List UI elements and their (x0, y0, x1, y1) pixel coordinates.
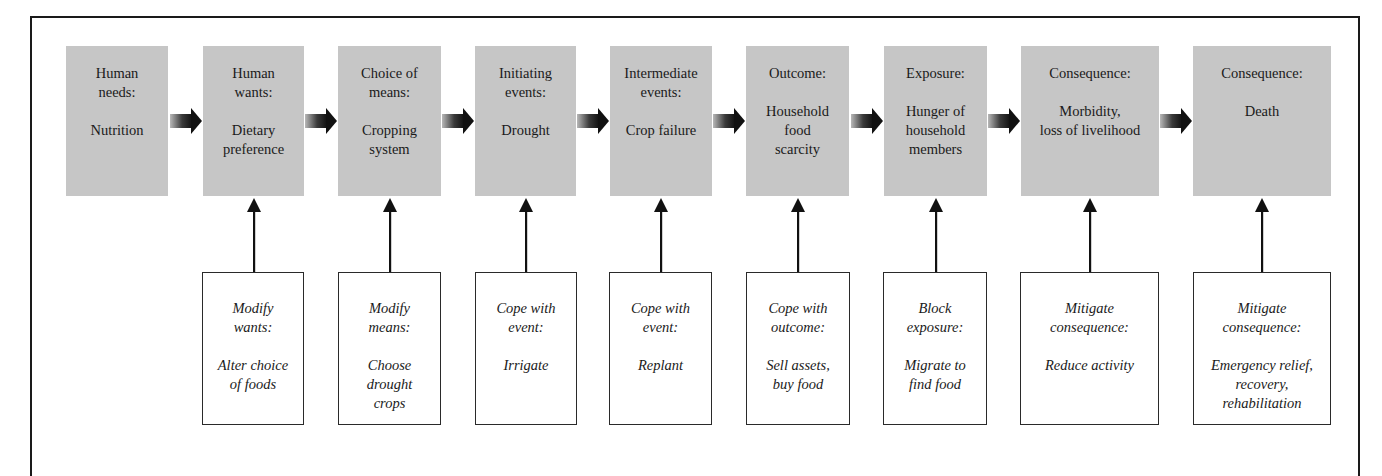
stage-value: Morbidity,loss of livelihood (1021, 102, 1159, 140)
stage-value-line: Cropping (362, 122, 417, 138)
response-heading: Mitigateconsequence: (1021, 299, 1158, 337)
stage-heading-line: Choice of (361, 65, 418, 81)
stage-heading: Humanneeds: (66, 64, 168, 102)
stage-value-line: Hunger of (906, 103, 965, 119)
response-action: Alter choiceof foods (203, 356, 303, 394)
stage-box: Exposure:Hunger ofhouseholdmembers (884, 46, 987, 196)
response-action: Sell assets,buy food (747, 356, 849, 394)
response-action-line: Reduce activity (1045, 357, 1134, 373)
response-heading-line: wants: (234, 319, 273, 335)
response-action-line: Choose (368, 357, 412, 373)
response-box: Cope withoutcome:Sell assets,buy food (746, 272, 850, 425)
up-arrow-icon (654, 198, 668, 272)
stage-heading-line: needs: (98, 84, 135, 100)
up-arrow-icon (247, 198, 261, 272)
stage-box: Choice ofmeans:Croppingsystem (338, 46, 441, 196)
response-heading: Modifymeans: (339, 299, 440, 337)
flow-arrow-icon (851, 108, 883, 134)
stage-value: Dietarypreference (203, 121, 304, 159)
response-action-line: buy food (773, 376, 823, 392)
stage-box: Humanwants:Dietarypreference (203, 46, 304, 196)
response-box: Blockexposure:Migrate tofind food (883, 272, 987, 425)
stage-box: Intermediateevents:Crop failure (610, 46, 712, 196)
flow-arrow-icon (1160, 108, 1192, 134)
stage-box: Outcome:Householdfoodscarcity (746, 46, 849, 196)
flow-arrow-icon (988, 108, 1020, 134)
response-heading-line: Cope with (631, 300, 690, 316)
stage-value: Nutrition (66, 121, 168, 140)
flow-arrow-icon (713, 108, 745, 134)
stage-value: Drought (475, 121, 576, 140)
response-heading-line: Modify (232, 300, 273, 316)
response-heading-line: means: (369, 319, 411, 335)
stage-heading-line: means: (369, 84, 410, 100)
up-arrow-icon (929, 198, 943, 272)
stage-value: Householdfoodscarcity (746, 102, 849, 159)
response-action-line: Sell assets, (766, 357, 830, 373)
stage-heading-line: Human (96, 65, 139, 81)
stage-heading-line: events: (640, 84, 681, 100)
stage-heading-line: Human (232, 65, 275, 81)
response-action-line: Alter choice (218, 357, 288, 373)
response-heading-line: consequence: (1050, 319, 1129, 335)
stage-value-line: household (906, 122, 966, 138)
response-heading-line: Modify (369, 300, 410, 316)
stage-value-line: members (909, 141, 962, 157)
response-box: Mitigateconsequence:Emergency relief,rec… (1193, 272, 1331, 425)
stage-value-line: Nutrition (90, 122, 143, 138)
response-action-line: of foods (230, 376, 276, 392)
stage-value-line: preference (223, 141, 284, 157)
response-heading-line: Cope with (496, 300, 555, 316)
stage-value: Death (1193, 102, 1331, 121)
stage-heading: Choice ofmeans: (338, 64, 441, 102)
stage-box: Humanneeds:Nutrition (66, 46, 168, 196)
stage-value-line: Morbidity, (1059, 103, 1121, 119)
stage-box: Initiatingevents:Drought (475, 46, 576, 196)
response-action-line: Irrigate (503, 357, 548, 373)
response-heading-line: Mitigate (1065, 300, 1114, 316)
flow-arrow-icon (170, 108, 202, 134)
response-action-line: Emergency relief, (1211, 357, 1313, 373)
response-action-line: recovery, (1235, 376, 1288, 392)
stage-value: Crop failure (610, 121, 712, 140)
stage-value-line: scarcity (775, 141, 820, 157)
stage-heading: Initiatingevents: (475, 64, 576, 102)
response-heading-line: event: (643, 319, 678, 335)
response-box: Cope withevent:Replant (609, 272, 712, 425)
response-action-line: find food (909, 376, 961, 392)
stage-heading: Consequence: (1193, 64, 1331, 83)
stage-heading: Consequence: (1021, 64, 1159, 83)
response-action-line: drought (367, 376, 412, 392)
response-box: Modifywants:Alter choiceof foods (202, 272, 304, 425)
stage-heading-line: Intermediate (624, 65, 697, 81)
response-box: Mitigateconsequence:Reduce activity (1020, 272, 1159, 425)
up-arrow-icon (1083, 198, 1097, 272)
stage-heading: Exposure: (884, 64, 987, 83)
response-heading: Cope withoutcome: (747, 299, 849, 337)
response-action: Reduce activity (1021, 356, 1158, 375)
stage-box: Consequence:Morbidity,loss of livelihood (1021, 46, 1159, 196)
response-heading: Cope withevent: (610, 299, 711, 337)
response-heading-line: Mitigate (1237, 300, 1286, 316)
response-heading: Mitigateconsequence: (1194, 299, 1330, 337)
response-box: Cope withevent:Irrigate (475, 272, 577, 425)
stage-value-line: system (369, 141, 409, 157)
response-heading-line: outcome: (771, 319, 825, 335)
response-heading-line: exposure: (907, 319, 964, 335)
stage-value: Hunger ofhouseholdmembers (884, 102, 987, 159)
response-box: Modifymeans:Choosedroughtcrops (338, 272, 441, 425)
stage-value-line: food (784, 122, 811, 138)
flow-arrow-icon (442, 108, 474, 134)
up-arrow-icon (1255, 198, 1269, 272)
response-action: Choosedroughtcrops (339, 356, 440, 413)
response-heading-line: event: (508, 319, 543, 335)
response-heading: Blockexposure: (884, 299, 986, 337)
stage-heading-line: Initiating (499, 65, 552, 81)
stage-heading: Outcome: (746, 64, 849, 83)
stage-value-line: Drought (501, 122, 549, 138)
response-action: Migrate tofind food (884, 356, 986, 394)
response-action-line: crops (374, 395, 406, 411)
stage-value: Croppingsystem (338, 121, 441, 159)
response-heading-line: Block (918, 300, 951, 316)
response-action: Irrigate (476, 356, 576, 375)
